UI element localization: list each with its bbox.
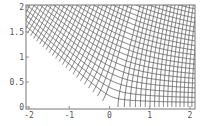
x-tick-label: 1 bbox=[147, 111, 152, 120]
y-tick-label: 2 bbox=[19, 3, 24, 12]
x-tick-label: 2 bbox=[188, 111, 193, 120]
x-axis-ticks: -2-1012 bbox=[24, 106, 192, 120]
grid-curve bbox=[7, 0, 204, 94]
grid-curve bbox=[200, 0, 204, 107]
grid-curve bbox=[203, 0, 204, 107]
conformal-grid-plot: -2-1012 00.511.52 bbox=[0, 0, 204, 126]
y-tick-label: 0 bbox=[19, 103, 24, 112]
grid-curve bbox=[188, 0, 204, 107]
x-tick-label: -1 bbox=[64, 111, 74, 120]
grid-curve bbox=[62, 0, 115, 65]
grid-curves bbox=[3, 0, 204, 107]
grid-curve bbox=[192, 0, 204, 107]
y-tick-label: 1 bbox=[19, 53, 24, 62]
grid-curve bbox=[45, 0, 204, 3]
grid-curve bbox=[27, 0, 204, 48]
x-tick-label: 0 bbox=[107, 111, 112, 120]
x-tick-label: -2 bbox=[24, 111, 34, 120]
grid-curve bbox=[196, 0, 204, 107]
y-tick-label: 0.5 bbox=[10, 78, 25, 87]
y-tick-label: 1.5 bbox=[10, 28, 25, 37]
grid-curve bbox=[130, 0, 161, 107]
